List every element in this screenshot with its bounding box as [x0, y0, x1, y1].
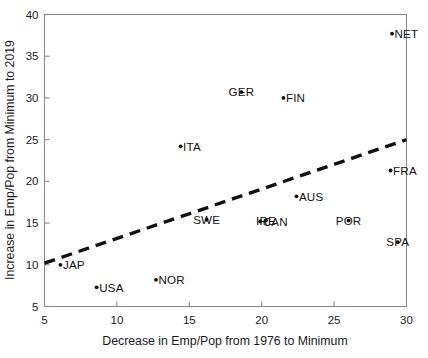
point-label: IRE: [256, 214, 276, 227]
point-marker: [389, 169, 393, 173]
y-tick-label: 15: [26, 217, 39, 229]
point-label: POR: [336, 214, 362, 227]
point-label: GER: [229, 85, 255, 98]
point-marker: [154, 278, 158, 282]
point-label: NOR: [158, 273, 184, 286]
x-axis-title: Decrease in Emp/Pop from 1976 to Minimum: [102, 334, 347, 348]
point-marker: [179, 144, 183, 148]
point-label: FIN: [286, 91, 305, 104]
y-tick-label: 35: [26, 50, 39, 62]
point-marker: [295, 194, 299, 198]
point-label: AUS: [299, 190, 324, 203]
scatter-chart: 510152025303540 51015202530 NETGERFINITA…: [0, 0, 428, 358]
y-tick-label: 25: [26, 134, 39, 146]
y-tick-label: 20: [26, 175, 39, 187]
data-point: JAP: [59, 258, 85, 271]
x-tick-label: 10: [111, 314, 124, 326]
y-axis-title: Increase in Emp/Pop from Minimum to 2019: [3, 40, 17, 280]
data-point: NET: [390, 27, 418, 40]
point-marker: [59, 263, 63, 267]
y-tick-label: 30: [26, 92, 39, 104]
point-marker: [282, 96, 286, 100]
chart-canvas: 510152025303540 51015202530 NETGERFINITA…: [0, 0, 428, 358]
data-point: NOR: [154, 273, 185, 286]
point-marker: [390, 32, 394, 36]
data-point: IRE: [256, 214, 276, 227]
data-point: SWE: [193, 213, 220, 226]
point-label: ITA: [183, 140, 201, 153]
data-point: SPA: [386, 235, 409, 248]
y-tick-label: 5: [32, 301, 38, 313]
x-tick-label: 20: [255, 314, 268, 326]
data-point: GER: [229, 85, 255, 98]
data-point: FIN: [282, 91, 306, 104]
point-label: SPA: [386, 235, 409, 248]
plot-frame: [45, 15, 407, 307]
point-label: NET: [395, 27, 419, 40]
point-label: JAP: [63, 258, 85, 271]
data-point: AUS: [295, 190, 324, 203]
y-tick-label: 40: [26, 9, 39, 21]
point-label: FRA: [393, 164, 417, 177]
x-tick-label: 15: [183, 314, 196, 326]
data-point: FRA: [389, 164, 417, 177]
point-label: USA: [99, 281, 124, 294]
x-tick-label: 25: [328, 314, 341, 326]
data-point: USA: [95, 281, 124, 294]
x-tick-label: 5: [41, 314, 47, 326]
y-tick-label: 10: [26, 259, 39, 271]
point-marker: [95, 285, 99, 289]
data-point: POR: [336, 214, 362, 227]
point-label: SWE: [193, 213, 220, 226]
x-tick-label: 30: [400, 314, 413, 326]
